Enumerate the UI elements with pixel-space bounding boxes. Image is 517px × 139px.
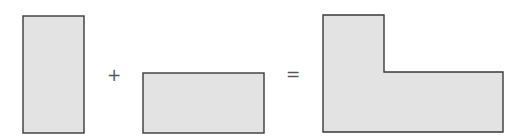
l-shape	[323, 15, 503, 132]
tall-rectangle	[23, 16, 84, 133]
plus-operator: +	[107, 65, 121, 85]
wide-rectangle	[143, 73, 264, 133]
equals-operator: =	[286, 64, 300, 84]
shape-addition-diagram: + =	[0, 0, 517, 139]
